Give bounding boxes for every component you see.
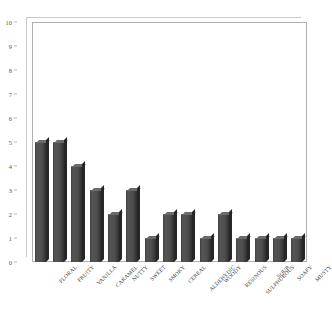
y-axis-tick-label: 4 [9, 163, 12, 170]
bar-side-face [119, 209, 122, 262]
bar-side-face [302, 233, 305, 262]
bar [200, 238, 211, 262]
x-axis: FLORALFRUITYVANILLACARAMELNUTTYSWEETSMOK… [32, 264, 307, 322]
bar-side-face [64, 137, 67, 262]
x-axis-tick-label: SMOKY [167, 264, 186, 283]
y-axis-tick-label: 9 [9, 43, 12, 50]
bar-side-face [229, 209, 232, 262]
bar-side-face [156, 233, 159, 262]
bar [53, 142, 64, 262]
x-axis-tick-label: MUSTY [314, 264, 332, 283]
bar [108, 214, 119, 262]
bar-side-face [247, 233, 250, 262]
y-axis-tick-mark [14, 70, 17, 71]
bar-side-face [82, 161, 85, 262]
y-axis-tick-label: 1 [9, 235, 12, 242]
y-axis-tick-label: 3 [9, 187, 12, 194]
y-axis: 012345678910 [0, 0, 32, 322]
bar [71, 166, 82, 262]
y-axis-tick-label: 2 [9, 211, 12, 218]
x-axis-tick-label: FLORAL [58, 264, 78, 284]
x-axis-tick-label: SWEET [149, 264, 167, 282]
y-axis-tick-mark [14, 262, 17, 263]
bar [181, 214, 192, 262]
y-axis-tick-mark [14, 94, 17, 95]
y-axis-tick-label: 8 [9, 67, 12, 74]
bar-side-face [192, 209, 195, 262]
y-axis-tick-mark [14, 142, 17, 143]
x-axis-tick-label: RESINOUS [243, 264, 267, 288]
bar-side-face [284, 233, 287, 262]
y-axis-tick-mark [14, 190, 17, 191]
bar [145, 238, 156, 262]
bar [236, 238, 247, 262]
y-axis-tick-label: 6 [9, 115, 12, 122]
bar [218, 214, 229, 262]
y-axis-tick-label: 5 [9, 139, 12, 146]
y-axis-tick-mark [14, 46, 17, 47]
bar-side-face [46, 137, 49, 262]
x-axis-tick-label: FRUITY [76, 264, 95, 283]
bar [273, 238, 284, 262]
y-axis-tick-label: 0 [9, 259, 12, 266]
bar [163, 214, 174, 262]
x-axis-tick-label: SOAPY [295, 264, 313, 282]
y-axis-tick-label: 10 [6, 19, 13, 26]
y-axis-tick-mark [14, 166, 17, 167]
bar-side-face [266, 233, 269, 262]
y-axis-tick-mark [14, 118, 17, 119]
bar [291, 238, 302, 262]
y-axis-tick-label: 7 [9, 91, 12, 98]
bar [126, 190, 137, 262]
bar-side-face [174, 209, 177, 262]
plot-area [32, 22, 307, 262]
x-axis-tick-label: CEREAL [186, 264, 206, 284]
bar-side-face [101, 185, 104, 262]
y-axis-tick-mark [14, 238, 17, 239]
bar-side-face [137, 185, 140, 262]
bar [90, 190, 101, 262]
bar [35, 142, 46, 262]
x-axis-tick-label: SULPHUROUS [264, 264, 295, 295]
bar [255, 238, 266, 262]
y-axis-tick-mark [14, 22, 17, 23]
bar-side-face [211, 233, 214, 262]
y-axis-tick-mark [14, 214, 17, 215]
